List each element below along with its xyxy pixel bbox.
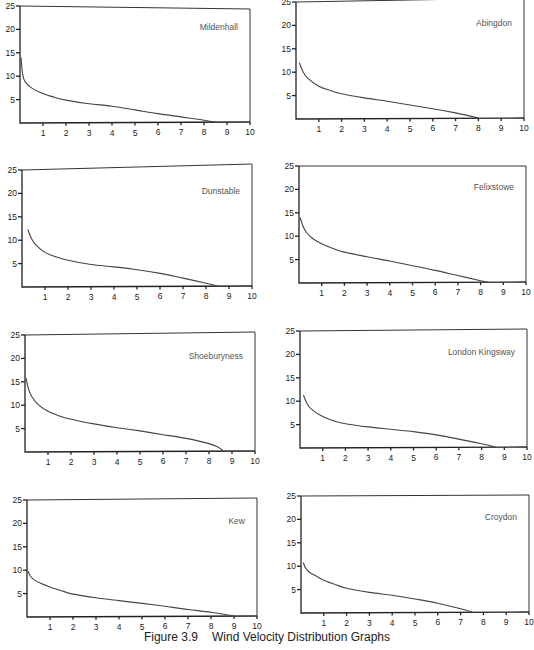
y-tick-label: 5 (286, 91, 291, 101)
x-tick-label: 10 (245, 127, 255, 137)
y-tick-label: 20 (285, 184, 295, 194)
x-tick-label: 4 (110, 128, 115, 138)
x-tick-label: 6 (156, 127, 161, 137)
x-tick-label: 1 (46, 457, 51, 467)
y-tick-label: 10 (286, 396, 296, 406)
station-label: Shoeburyness (189, 351, 243, 361)
figure-caption: Figure 3.9Wind Velocity Distribution Gra… (0, 630, 534, 644)
y-tick-label: 20 (286, 349, 296, 359)
y-tick-label: 10 (8, 235, 18, 245)
distribution-curve (28, 229, 218, 286)
y-tick-label: 25 (287, 491, 297, 501)
x-tick-label: 7 (179, 127, 184, 137)
x-tick-label: 7 (181, 291, 186, 301)
x-tick-label: 4 (388, 453, 393, 463)
plot-frame (27, 498, 257, 616)
distribution-curve (26, 378, 223, 451)
x-tick-label: 8 (478, 287, 483, 297)
x-tick-label: 6 (435, 617, 440, 627)
x-tick-label: 5 (135, 292, 140, 302)
x-tick-label: 6 (161, 456, 166, 466)
x-tick-label: 2 (69, 457, 74, 467)
x-tick-label: 10 (519, 123, 529, 133)
y-tick-label: 25 (13, 495, 23, 505)
x-tick-label: 3 (362, 124, 367, 134)
x-tick-label: 9 (227, 291, 232, 301)
y-tick-label: 15 (285, 208, 295, 218)
x-tick-label: 7 (457, 452, 462, 462)
plot-frame (25, 332, 255, 451)
x-tick-label: 8 (207, 456, 212, 466)
x-tick-label: 7 (453, 123, 458, 133)
distribution-curve (299, 63, 478, 118)
x-tick-label: 9 (501, 287, 506, 297)
x-tick-label: 9 (230, 456, 235, 466)
y-tick-label: 10 (287, 561, 297, 571)
figure-number: Figure 3.9 (144, 630, 198, 644)
distribution-curve (21, 58, 215, 123)
station-label: Kew (228, 516, 245, 526)
x-tick-label: 4 (387, 288, 392, 298)
y-tick-label: 5 (12, 259, 17, 269)
y-tick-label: 20 (282, 20, 292, 30)
x-tick-label: 10 (521, 287, 531, 297)
x-tick-label: 3 (89, 292, 94, 302)
x-tick-label: 5 (133, 128, 138, 138)
x-tick-label: 3 (92, 457, 97, 467)
x-tick-label: 3 (365, 288, 370, 298)
x-tick-label: 9 (225, 127, 230, 137)
x-tick-label: 8 (202, 127, 207, 137)
x-tick-label: 10 (524, 617, 534, 627)
y-tick-label: 20 (6, 24, 16, 34)
x-tick-label: 10 (247, 291, 257, 301)
distribution-curve (303, 395, 495, 447)
y-tick-label: 15 (287, 538, 297, 548)
y-tick-label: 10 (13, 565, 23, 575)
x-tick-label: 9 (499, 123, 504, 133)
y-tick-label: 5 (15, 424, 20, 434)
station-label: Croydon (485, 512, 517, 522)
y-tick-label: 25 (6, 1, 16, 11)
x-tick-label: 2 (64, 128, 69, 138)
x-tick-label: 10 (250, 456, 260, 466)
y-tick-label: 25 (8, 165, 18, 175)
y-tick-label: 10 (11, 400, 21, 410)
x-tick-label: 1 (320, 453, 325, 463)
y-tick-label: 10 (285, 231, 295, 241)
x-tick-label: 9 (502, 452, 507, 462)
x-tick-label: 2 (342, 288, 347, 298)
y-tick-label: 25 (282, 0, 292, 7)
x-tick-label: 1 (43, 292, 48, 302)
x-tick-label: 1 (316, 124, 321, 134)
y-tick-label: 15 (13, 542, 23, 552)
y-tick-label: 5 (289, 255, 294, 265)
y-tick-label: 20 (8, 188, 18, 198)
x-tick-label: 4 (385, 124, 390, 134)
station-label: Dunstable (202, 186, 241, 196)
chart-panel-croydon: 51015202512345678910Croydon (279, 490, 534, 631)
x-tick-label: 1 (321, 618, 326, 628)
x-tick-label: 9 (504, 617, 509, 627)
y-tick-label: 25 (285, 161, 295, 171)
station-label: Felixstowe (474, 182, 514, 192)
chart-panel-shoeburyness: 51015202512345678910Shoeburyness (3, 329, 265, 470)
chart-panel-mildenhall: 51015202512345678910Mildenhall (0, 0, 260, 141)
x-tick-label: 10 (522, 452, 532, 462)
distribution-curve (300, 218, 487, 283)
chart-panel-london-kingsway: 51015202512345678910London Kingsway (278, 325, 534, 466)
x-tick-label: 2 (66, 292, 71, 302)
x-tick-label: 5 (413, 618, 418, 628)
x-tick-label: 8 (479, 452, 484, 462)
chart-panel-felixstowe: 51015202512345678910Felixstowe (277, 160, 534, 301)
station-label: Mildenhall (200, 22, 238, 32)
x-tick-label: 5 (138, 457, 143, 467)
y-tick-label: 25 (286, 326, 296, 336)
x-tick-label: 7 (456, 287, 461, 297)
plot-frame (22, 164, 252, 286)
y-tick-label: 25 (11, 330, 21, 340)
y-tick-label: 15 (286, 373, 296, 383)
distribution-curve (28, 571, 234, 616)
x-tick-label: 1 (319, 288, 324, 298)
x-tick-label: 2 (339, 124, 344, 134)
chart-panel-kew: 51015202512345678910Kew (5, 494, 267, 635)
